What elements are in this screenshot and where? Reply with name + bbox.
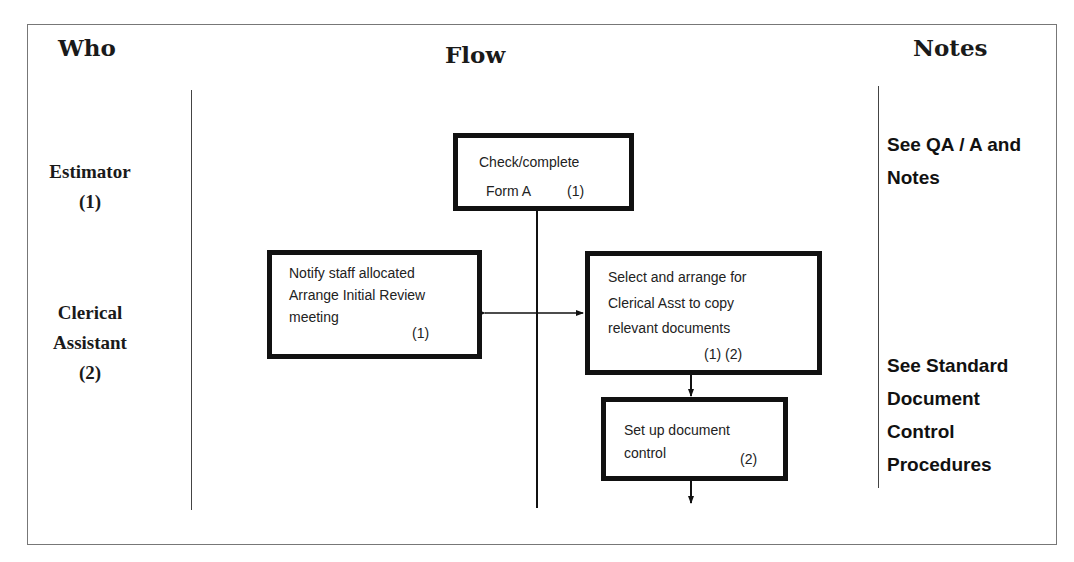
box-notify-who: (1)	[412, 325, 429, 341]
box-doc-control: Set up document control (2)	[601, 397, 788, 481]
box-select-line2: Clerical Asst to copy	[608, 295, 734, 311]
note-standard-line4: Procedures	[887, 448, 1008, 481]
box-notify-line1: Notify staff allocated	[289, 265, 415, 281]
note-standard-line1: See Standard	[887, 349, 1008, 382]
box-notify-line3: meeting	[289, 309, 339, 325]
note-standard-doc-control: See Standard Document Control Procedures	[887, 349, 1008, 481]
note-qa-line1: See QA / A and	[887, 128, 1021, 161]
box-select-who: (1) (2)	[704, 346, 742, 362]
note-qa-line2: Notes	[887, 161, 1021, 194]
box-check-form-line1: Check/complete	[479, 154, 579, 170]
box-notify-staff: Notify staff allocated Arrange Initial R…	[267, 250, 482, 359]
box-doc-control-who: (2)	[740, 451, 757, 467]
box-select-arrange: Select and arrange for Clerical Asst to …	[585, 251, 822, 375]
box-check-form-line2: Form A	[486, 183, 531, 199]
box-doc-control-line2: control	[624, 445, 666, 461]
box-select-line3: relevant documents	[608, 320, 730, 336]
box-notify-line2: Arrange Initial Review	[289, 287, 425, 303]
note-qa: See QA / A and Notes	[887, 128, 1021, 194]
box-check-form-who: (1)	[567, 183, 584, 199]
note-standard-line3: Control	[887, 415, 1008, 448]
box-doc-control-line1: Set up document	[624, 422, 730, 438]
note-standard-line2: Document	[887, 382, 1008, 415]
box-check-form: Check/complete Form A (1)	[453, 133, 634, 211]
box-select-line1: Select and arrange for	[608, 269, 747, 285]
